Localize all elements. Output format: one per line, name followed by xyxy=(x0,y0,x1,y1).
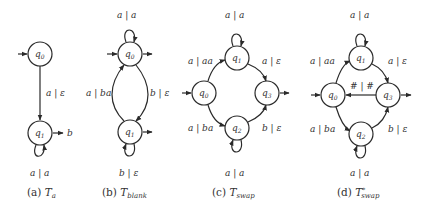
transducer-figure: a | ε a | a b q0 q1 (a) Ta a | a b | ε a… xyxy=(0,0,428,212)
edge-q2-q3 xyxy=(372,107,388,128)
edge-q1-q0 xyxy=(112,65,124,121)
caption-a: (a) Ta xyxy=(27,186,56,200)
state-q3: q3 xyxy=(255,81,279,105)
edge-label: a | a xyxy=(117,10,137,21)
edge-q1-q3 xyxy=(372,64,388,83)
state-q0: q0 xyxy=(321,83,345,107)
edge-label: a | ε xyxy=(388,56,407,67)
diagram-d: a | aa a | a a | ε a | ba a | a b | ε # … xyxy=(310,10,411,200)
diagram-a: a | ε a | a b q0 q1 (a) Ta xyxy=(18,42,73,200)
edge-label: b | ε xyxy=(388,124,408,135)
edge-label: a | ε xyxy=(46,88,65,99)
state-q1: q1 xyxy=(225,46,249,70)
state-q0: q0 xyxy=(192,81,216,105)
self-loop-q2 xyxy=(356,146,366,158)
edge-label: a | ε xyxy=(262,56,281,67)
caption-b: (b) Tblank xyxy=(102,186,147,200)
self-loop-q1 xyxy=(356,34,366,46)
state-q0: q0 xyxy=(28,42,52,66)
edge-label: a | a xyxy=(225,10,245,21)
state-q1: q1 xyxy=(349,46,373,70)
edge-q0-q1 xyxy=(136,65,148,121)
edge-label: a | aa xyxy=(310,56,335,67)
state-q0: q0 xyxy=(118,42,142,66)
diagram-b: a | a b | ε a | ba b | ε q0 q1 (b) Tblan… xyxy=(86,10,170,200)
state-q3: q3 xyxy=(376,83,400,107)
edge-label: a | ba xyxy=(86,88,111,99)
caption-d: (d) T*swap xyxy=(337,186,380,200)
self-loop-q1 xyxy=(125,144,135,156)
edge-label: a | a xyxy=(225,168,245,179)
state-q2: q2 xyxy=(225,116,249,140)
edge-q2-q3 xyxy=(248,105,266,122)
final-output: b xyxy=(67,128,73,138)
edge-label: a | a xyxy=(350,10,370,21)
edge-label: b | ε xyxy=(150,88,170,99)
self-loop-q2 xyxy=(232,140,242,152)
state-q1: q1 xyxy=(28,121,52,145)
diagram-c: a | aa a | a a | ε a | ba a | a b | ε q0… xyxy=(182,10,289,200)
self-loop-q0 xyxy=(125,30,135,42)
edge-q0-q1 xyxy=(336,61,350,83)
edge-label: b | ε xyxy=(119,168,139,179)
edge-label: b | ε xyxy=(262,123,282,134)
edge-label: a | aa xyxy=(188,56,213,67)
self-loop-q1 xyxy=(232,34,242,46)
edge-label: a | a xyxy=(30,168,50,179)
edge-label: a | ba xyxy=(188,123,213,134)
edge-q0-q2 xyxy=(336,107,350,131)
edge-label: # | # xyxy=(350,81,374,92)
state-q2: q2 xyxy=(349,122,373,146)
self-loop-q1 xyxy=(35,145,45,156)
state-q1: q1 xyxy=(118,120,142,144)
caption-c: (c) Tswap xyxy=(212,186,255,200)
edge-q1-q3 xyxy=(248,64,266,81)
edge-label: a | ba xyxy=(310,124,335,135)
edge-label: a | a xyxy=(350,168,370,179)
